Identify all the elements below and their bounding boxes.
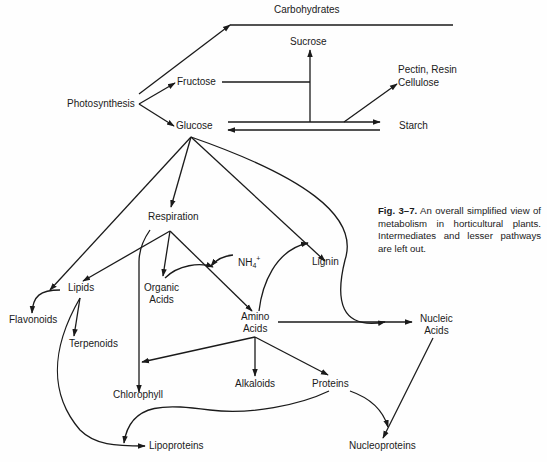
node-lipids: Lipids — [68, 282, 94, 294]
node-amino-acids: AminoAcids — [241, 311, 269, 335]
node-nh4: NH4+ — [238, 253, 260, 272]
node-flavonoids: Flavonoids — [9, 314, 57, 326]
node-lignin: Lignin — [312, 256, 339, 268]
node-sucrose: Sucrose — [290, 36, 327, 48]
node-terpenoids: Terpenoids — [69, 338, 118, 350]
organic-acids-line2: Acids — [149, 294, 173, 305]
node-starch: Starch — [399, 120, 428, 132]
node-organic-acids: OrganicAcids — [144, 282, 179, 306]
node-cellulose: Cellulose — [398, 77, 439, 89]
nh4-base: NH — [238, 257, 252, 268]
amino-acids-line1: Amino — [241, 311, 269, 322]
node-proteins: Proteins — [312, 378, 349, 390]
node-respiration: Respiration — [148, 211, 199, 223]
node-photosynthesis: Photosynthesis — [67, 98, 135, 110]
figure-label: Fig. 3–7. — [378, 205, 417, 216]
nucleic-acids-line1: Nucleic — [420, 313, 453, 324]
figure-caption: Fig. 3–7. An overall simplified view of … — [378, 205, 541, 255]
node-pectin-resin: Pectin, Resin — [398, 64, 457, 76]
nh4-superscript: + — [256, 255, 260, 262]
nh4-subscript: 4 — [252, 262, 256, 269]
node-carbohydrates: Carbohydrates — [274, 4, 340, 16]
node-alkaloids: Alkaloids — [235, 378, 275, 390]
node-lipoproteins: Lipoproteins — [149, 440, 203, 452]
node-glucose: Glucose — [176, 120, 213, 132]
organic-acids-line1: Organic — [144, 282, 179, 293]
amino-acids-line2: Acids — [243, 323, 267, 334]
node-chlorophyll: Chlorophyll — [113, 389, 163, 401]
node-nucleic-acids: NucleicAcids — [420, 313, 453, 337]
node-fructose: Fructose — [177, 76, 216, 88]
metabolism-diagram: Carbohydrates Sucrose Pectin, Resin Cell… — [0, 0, 547, 462]
node-nucleoproteins: Nucleoproteins — [349, 440, 416, 452]
nucleic-acids-line2: Acids — [424, 325, 448, 336]
